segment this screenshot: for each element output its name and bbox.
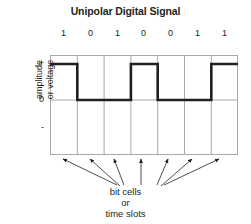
- callout-arrow: [164, 159, 219, 185]
- bit-label: 1: [50, 28, 77, 38]
- waveform-svg: [50, 55, 238, 155]
- bit-label: 0: [130, 28, 157, 38]
- signal-waveform: [50, 64, 238, 100]
- callout-line-3: time slots: [0, 208, 251, 219]
- figure-title: Unipolar Digital Signal: [0, 5, 251, 17]
- callout-arrow: [63, 159, 117, 185]
- bit-label: 0: [157, 28, 184, 38]
- y-tick-negative: -: [30, 122, 44, 132]
- callout-arrow: [161, 159, 192, 186]
- callout-line-2: or: [0, 197, 251, 208]
- callout-line-1: bit cells: [0, 186, 251, 197]
- y-axis-label-line2: or voltage: [44, 60, 54, 100]
- unipolar-digital-signal-figure: Unipolar Digital Signal 1 0 1 0 0 1 1 am…: [0, 0, 251, 224]
- bit-label: 0: [77, 28, 104, 38]
- bit-label: 1: [211, 28, 238, 38]
- bit-label: 1: [184, 28, 211, 38]
- y-axis-label: amplitude or voltage: [34, 44, 55, 116]
- bit-label: 1: [104, 28, 131, 38]
- y-tick-positive: +: [30, 58, 44, 68]
- signal-plot: amplitude or voltage + 0 -: [50, 55, 238, 155]
- callout-text: bit cells or time slots: [0, 186, 251, 219]
- y-tick-zero: 0: [30, 94, 44, 104]
- callout-arrow: [114, 159, 124, 185]
